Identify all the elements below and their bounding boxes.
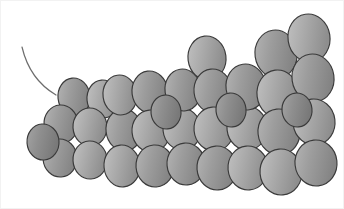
atom-layer [26,11,340,197]
bond-tail [22,47,56,95]
molecule-canvas [0,0,344,209]
atom-06 [72,140,108,180]
molecular-model-figure [0,0,344,209]
